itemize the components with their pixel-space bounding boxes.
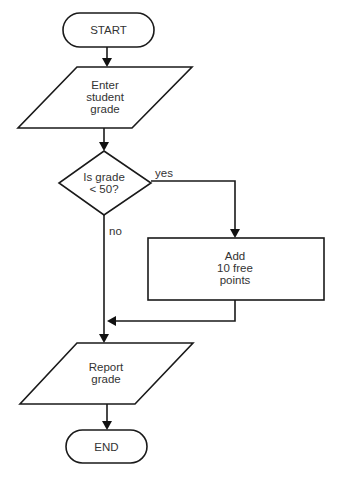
connector-yes-branch [151, 181, 235, 230]
arrowhead-icon [102, 421, 112, 430]
end-label: END [66, 441, 147, 453]
process-label: Add 10 free points [185, 250, 285, 286]
start-label: START [63, 24, 154, 36]
flowchart-canvas [0, 0, 342, 477]
arrowhead-icon [99, 142, 109, 151]
connector-process-merge [115, 300, 235, 321]
input-label: Enter student grade [55, 79, 155, 115]
arrowhead-icon [99, 334, 109, 343]
arrowhead-icon [107, 316, 116, 326]
yes-edge-label: yes [155, 167, 173, 179]
no-edge-label: no [109, 225, 122, 237]
arrowhead-icon [102, 58, 112, 67]
arrowhead-icon [230, 229, 240, 238]
decision-label: Is grade < 50? [64, 171, 144, 195]
output-label: Report grade [56, 361, 156, 385]
